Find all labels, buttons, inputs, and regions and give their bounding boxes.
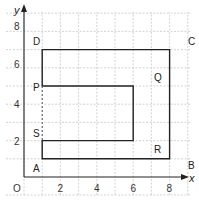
x-tick-4: 4 xyxy=(94,183,100,194)
point-label-b: B xyxy=(188,160,195,171)
point-label-d: D xyxy=(33,36,40,47)
point-label-c: C xyxy=(188,36,195,47)
point-label-r: R xyxy=(154,144,161,155)
x-axis-label: x xyxy=(188,172,195,184)
y-tick-6: 6 xyxy=(14,59,20,70)
y-axis-arrow-icon xyxy=(21,4,27,12)
y-tick-8: 8 xyxy=(14,21,20,32)
origin-label: O xyxy=(13,183,21,194)
y-tick-4: 4 xyxy=(14,99,20,110)
point-label-s: S xyxy=(33,128,40,139)
coordinate-diagram: 2 4 6 8 2 4 6 8 O x y A B C D P Q R S xyxy=(0,0,199,206)
x-tick-8: 8 xyxy=(167,183,173,194)
point-label-a: A xyxy=(33,163,40,174)
y-tick-2: 2 xyxy=(14,136,20,147)
y-axis-label: y xyxy=(13,4,21,16)
point-label-q: Q xyxy=(154,72,162,83)
point-label-p: P xyxy=(33,82,40,93)
x-tick-2: 2 xyxy=(58,183,64,194)
x-tick-6: 6 xyxy=(131,183,137,194)
